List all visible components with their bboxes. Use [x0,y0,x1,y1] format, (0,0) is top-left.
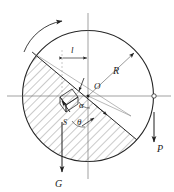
label-force-s: S [63,118,67,127]
label-force-g: G [55,178,62,189]
figure-container: O R l α θ P G S [0,0,174,192]
label-force-p: P [156,143,163,154]
right-pivot-marker [152,94,156,98]
rotation-direction-arrow[interactable] [24,21,62,52]
label-angle-alpha: α [79,100,84,110]
center-point-marker [87,95,90,98]
label-center: O [94,81,101,91]
inward-arrow-upper [79,78,84,91]
label-angle-theta: θ [77,117,82,127]
label-offset-length: l [71,45,74,55]
label-radius: R [112,65,119,76]
rotating-disc-diagram: O R l α θ P G S [0,0,174,192]
